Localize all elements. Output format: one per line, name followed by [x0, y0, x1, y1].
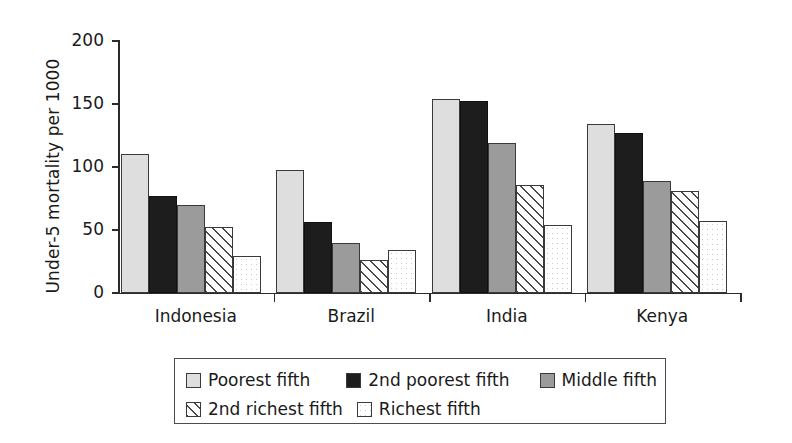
legend-swatch-2nd-richest-fifth-icon: [186, 402, 201, 417]
bar-kenya-series-1: [587, 124, 615, 293]
legend-item-middle-fifth[interactable]: Middle fifth: [540, 372, 657, 389]
bar-indonesia-series-4: [205, 227, 233, 293]
legend-label-2nd-poorest-fifth: 2nd poorest fifth: [368, 372, 509, 389]
legend-swatch-richest-fifth-icon: [357, 402, 372, 417]
bar-brazil-series-1: [276, 170, 304, 293]
legend-item-poorest-fifth[interactable]: Poorest fifth: [186, 372, 310, 389]
x-axis-label-india: India: [429, 306, 585, 326]
bar-india-series-2: [460, 101, 488, 293]
y-axis-tick-label: 50: [56, 221, 104, 238]
x-axis-tick: [274, 293, 276, 302]
bar-brazil-series-3: [332, 243, 360, 293]
bar-indonesia-series-3: [177, 205, 205, 293]
legend-label-poorest-fifth: Poorest fifth: [208, 372, 310, 389]
legend-swatch-middle-fifth-icon: [540, 373, 555, 388]
bar-india-series-1: [432, 99, 460, 293]
bar-india-series-5: [544, 225, 572, 293]
bar-chart: Under-5 mortality per 1000 050100150200 …: [0, 0, 792, 443]
legend-swatch-2nd-poorest-fifth-icon: [346, 373, 361, 388]
y-axis-tick-label: 100: [56, 158, 104, 175]
x-axis-tick: [429, 293, 431, 302]
legend-item-2nd-richest-fifth[interactable]: 2nd richest fifth: [186, 401, 343, 418]
bar-brazil-series-5: [388, 250, 416, 293]
y-axis-tick-label: 200: [56, 32, 104, 49]
legend-swatch-poorest-fifth-icon: [186, 373, 201, 388]
legend-item-2nd-poorest-fifth[interactable]: 2nd poorest fifth: [346, 372, 509, 389]
bar-brazil-series-2: [304, 222, 332, 293]
bar-kenya-series-3: [643, 181, 671, 293]
x-axis-tick: [740, 293, 742, 302]
legend-item-richest-fifth[interactable]: Richest fifth: [357, 401, 481, 418]
y-axis-tick-labels: 050100150200: [52, 0, 104, 443]
bar-indonesia-series-5: [233, 256, 261, 293]
chart-legend: Poorest fifth 2nd poorest fifth Middle f…: [174, 358, 666, 424]
legend-label-middle-fifth: Middle fifth: [562, 372, 657, 389]
bar-indonesia-series-2: [149, 196, 177, 293]
bar-kenya-series-5: [699, 221, 727, 293]
y-axis-tick-label: 0: [56, 284, 104, 301]
legend-row-2: 2nd richest fifth Richest fifth: [186, 395, 665, 424]
bar-indonesia-series-1: [121, 154, 149, 293]
legend-label-richest-fifth: Richest fifth: [379, 401, 481, 418]
y-axis-tick-label: 150: [56, 95, 104, 112]
bar-brazil-series-4: [360, 260, 388, 293]
x-axis-label-kenya: Kenya: [585, 306, 741, 326]
bar-india-series-3: [488, 143, 516, 293]
bar-series-container: [118, 41, 740, 293]
legend-row-1: Poorest fifth 2nd poorest fifth Middle f…: [186, 366, 665, 395]
bar-india-series-4: [516, 185, 544, 293]
bar-kenya-series-2: [615, 133, 643, 293]
bar-kenya-series-4: [671, 191, 699, 293]
x-axis-label-brazil: Brazil: [274, 306, 430, 326]
x-axis-tick: [585, 293, 587, 302]
legend-label-2nd-richest-fifth: 2nd richest fifth: [208, 401, 343, 418]
x-axis-label-indonesia: Indonesia: [118, 306, 274, 326]
